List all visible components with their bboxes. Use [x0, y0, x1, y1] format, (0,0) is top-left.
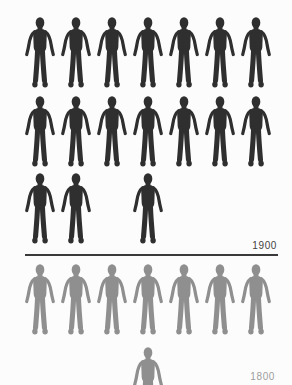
person-icon — [95, 264, 129, 337]
person-icon — [131, 264, 165, 337]
person-icon — [239, 264, 273, 337]
person-icon — [59, 173, 93, 246]
person-icon — [239, 17, 273, 90]
person-icon — [131, 96, 165, 169]
year-label-bottom: 1800 — [250, 371, 275, 382]
person-icon — [167, 17, 201, 90]
year-label-top: 1900 — [252, 240, 277, 251]
person-icon — [239, 96, 273, 169]
person-icon — [131, 17, 165, 90]
person-icon — [59, 96, 93, 169]
person-icon — [167, 264, 201, 337]
figures-layer — [0, 0, 292, 385]
person-icon — [23, 264, 57, 337]
person-icon — [131, 173, 165, 246]
person-icon — [203, 17, 237, 90]
person-icon — [23, 173, 57, 246]
person-icon — [167, 96, 201, 169]
person-icon — [23, 96, 57, 169]
person-icon-partial — [131, 347, 165, 385]
person-icon — [95, 96, 129, 169]
isotype-pictogram-canvas: 1900 1800 — [0, 0, 292, 385]
divider-line — [25, 254, 278, 256]
person-icon — [23, 17, 57, 90]
person-icon — [59, 264, 93, 337]
person-icon — [203, 96, 237, 169]
person-icon — [95, 17, 129, 90]
person-icon — [203, 264, 237, 337]
person-icon — [59, 17, 93, 90]
